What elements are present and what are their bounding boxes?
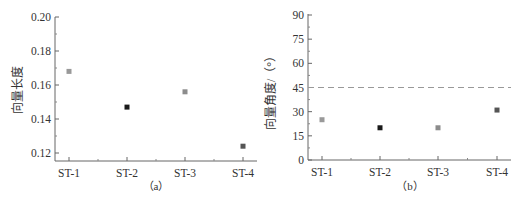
x-category-label: ST-2 — [369, 166, 391, 178]
data-point-st-4 — [241, 144, 246, 149]
chart-panel-b: 0153045607590ST-1ST-2ST-3ST-4向量角度/（°）（b） — [263, 9, 511, 192]
x-category-label: ST-4 — [232, 167, 254, 179]
y-tick-label: 0 — [298, 154, 304, 166]
y-tick-label: 15 — [293, 130, 305, 142]
panel-caption: （a） — [143, 180, 170, 192]
chart-panel-a: 0.120.140.160.180.20ST-1ST-2ST-3ST-4向量长度… — [10, 11, 257, 192]
y-tick-label: 0.16 — [31, 79, 51, 91]
data-point-st-2 — [378, 125, 383, 130]
chart-canvas: 0.120.140.160.180.20ST-1ST-2ST-3ST-4向量长度… — [0, 0, 520, 205]
y-axis-label: 向量角度/（°） — [263, 50, 278, 130]
y-tick-label: 0.20 — [31, 11, 51, 23]
y-tick-label: 30 — [293, 106, 305, 118]
y-tick-label: 0.12 — [31, 147, 51, 159]
panel-caption: （b） — [396, 180, 424, 192]
x-category-label: ST-3 — [427, 166, 449, 178]
y-tick-label: 60 — [293, 57, 305, 69]
data-point-st-4 — [495, 108, 500, 113]
y-tick-label: 75 — [293, 33, 305, 45]
x-category-label: ST-3 — [174, 167, 196, 179]
data-point-st-3 — [436, 125, 441, 130]
y-tick-label: 90 — [293, 9, 305, 21]
y-tick-label: 0.14 — [31, 113, 51, 125]
data-point-st-3 — [183, 89, 188, 94]
x-category-label: ST-1 — [58, 167, 80, 179]
x-category-label: ST-4 — [486, 166, 508, 178]
data-point-st-1 — [67, 69, 72, 74]
y-tick-label: 45 — [293, 82, 305, 94]
data-point-st-1 — [320, 117, 325, 122]
y-tick-label: 0.18 — [31, 45, 51, 57]
y-axis-label: 向量长度 — [10, 66, 25, 114]
x-category-label: ST-1 — [311, 166, 333, 178]
x-category-label: ST-2 — [116, 167, 138, 179]
data-point-st-2 — [125, 105, 130, 110]
